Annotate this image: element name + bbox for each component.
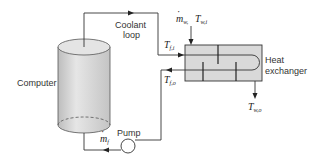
water-inlet-arrow [189, 26, 194, 45]
symbol: m [176, 13, 183, 24]
symbol: m [100, 133, 107, 144]
subscript: f [107, 139, 109, 145]
heat-exchanger-label-1: Heat [265, 55, 284, 65]
computer-cylinder [58, 39, 110, 133]
subscript: f,i [170, 45, 175, 51]
arrow-bottom [103, 148, 109, 153]
pump-label: Pump [117, 128, 141, 138]
subscript: f,o [170, 80, 176, 86]
coolant-loop-label-1: Coolant [115, 20, 146, 30]
arrow-fi [178, 53, 184, 58]
subscript: w, [183, 19, 188, 25]
subscript: w,i [201, 19, 208, 25]
heat-exchanger-label-2: exchanger [265, 66, 307, 76]
fluid-inlet-temp-var: Tf,i [164, 40, 174, 53]
heat-exchanger [185, 45, 262, 81]
water-outlet-arrow [253, 81, 258, 99]
water-inlet-temp-var: Tw,i [195, 14, 207, 27]
fluid-mass-flow-var: mf [100, 134, 109, 147]
fluid-outlet-temp-var: Tf,o [164, 75, 176, 88]
arrow-top [128, 11, 134, 16]
coolant-loop-label-2: loop [123, 30, 140, 40]
arrow-fo [166, 68, 172, 73]
pump-circle [121, 139, 135, 153]
water-outlet-temp-var: Tw,o [248, 102, 262, 115]
water-inlet-mass-var: mw, [176, 14, 188, 27]
subscript: w,o [254, 107, 262, 113]
computer-label: Computer [17, 78, 57, 88]
